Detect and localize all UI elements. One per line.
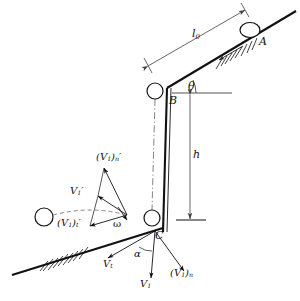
lower-incline-hatching [40,247,88,271]
ball-left-trajectory [35,208,53,226]
label-vector-v1-prime: V1′ [70,186,83,197]
ball-drop-path-dashdot [152,99,155,210]
vertical-wall-bc [163,88,171,232]
vector-v1-t-prime [90,215,127,226]
physics-diagram-figure: l0 A B θ h C α Vt V1 (V1)n (V1)n′ V1′ (V… [0,0,300,301]
vector-v-t [108,231,155,258]
label-point-a: A [259,36,267,47]
label-vector-v1-t-prime: (V1)t′ [57,218,81,229]
rebound-trajectory-dashed [53,210,126,215]
label-angle-alpha: α [134,249,141,259]
incline-surface-direction-arrow [219,46,243,60]
ball-at-b [147,83,163,99]
ball-at-c [144,210,160,226]
label-point-c: C [155,230,163,241]
label-point-b: B [169,95,177,106]
label-height-h: h [193,149,200,160]
label-length-l0: l0 [192,28,200,40]
label-vector-v1-n: (V1)n [170,268,193,279]
upper-incline-surface [167,11,296,88]
upper-incline-hatching [216,38,257,69]
label-vector-v-t: Vt [103,259,113,270]
dimension-h [176,95,206,220]
label-angle-theta: θ [188,81,195,92]
label-vector-v1-n-prime: (V1)n′ [96,152,121,163]
label-vector-v-1: V1 [140,279,151,290]
label-omega: ω [113,219,121,229]
ball-at-a [240,23,260,38]
rebound-velocity-vectors [90,168,127,226]
diagram-canvas [0,0,300,301]
